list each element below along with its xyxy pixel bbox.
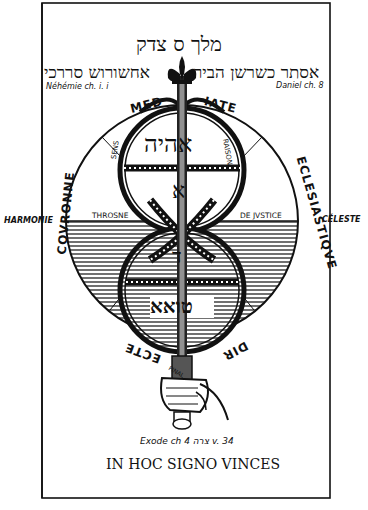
label-celeste: CÉLESTE [322,215,361,224]
motto: IN HOC SIGNO VINCES [106,456,280,472]
right-hebrew-line: אסתר כשרשן הביר [194,62,319,83]
upper-circle-hebrew: אהיה [144,130,192,158]
label-throsne: THROSNE [92,211,128,220]
label-de-justice: DE JVSTICE [240,211,282,220]
fleur-de-lis-icon [168,56,197,84]
right-reference: Daniel ch. 8 [276,81,324,90]
exodus-reference: Exode ch 4 צרה v. 34 [140,436,234,446]
lower-circle-hebrew: טואא [150,294,193,318]
label-harmonie: HARMONIE [4,216,53,225]
left-hebrew-line: אחשורוש סררכי [44,62,150,83]
lower-circle-dalet: ד [172,244,182,268]
left-reference: Néhémie ch. i. i [46,82,108,91]
upper-circle-aleph: א [172,178,185,204]
top-hebrew-title: מלך ס צדק [136,32,222,56]
